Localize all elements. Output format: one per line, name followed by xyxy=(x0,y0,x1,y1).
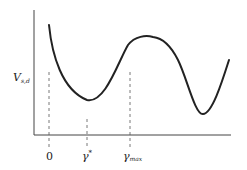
potential-curve xyxy=(49,25,229,114)
tick-label-zero: 0 xyxy=(46,150,53,163)
y-axis-label: Vs,d xyxy=(13,71,30,84)
tick-label-gamma-star: γ* xyxy=(82,149,93,163)
potential-diagram: Vs,d 0 γ* γmax xyxy=(0,0,247,170)
tick-label-gamma-max: γmax xyxy=(123,150,143,163)
